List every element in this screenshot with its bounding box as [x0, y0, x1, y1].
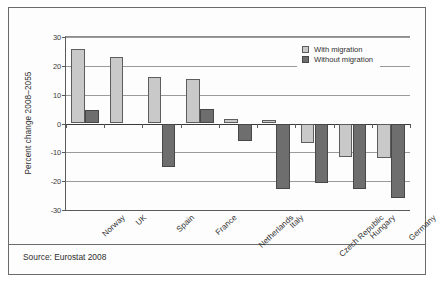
legend-item-with-migration: With migration	[302, 44, 373, 54]
bar	[301, 124, 315, 144]
x-tick-mark	[181, 124, 182, 128]
bar	[162, 124, 176, 167]
x-tick-mark	[372, 124, 373, 128]
x-tick-mark	[410, 124, 411, 128]
gridline--30	[66, 210, 410, 211]
x-tick-mark	[257, 124, 258, 128]
bar	[315, 124, 329, 184]
x-tick-mark	[104, 124, 105, 128]
x-tick-label-norway: Norway	[100, 213, 126, 238]
y-tick-label-20: 20	[53, 61, 61, 70]
y-tick-label-0: 0	[57, 119, 61, 128]
y-tick-label-30: 30	[53, 33, 61, 42]
legend-swatch-icon-without-migration	[302, 56, 309, 63]
bar	[276, 124, 290, 190]
bar-group	[66, 37, 104, 210]
x-tick-mark	[295, 124, 296, 128]
source-note: Source: Eurostat 2008	[23, 252, 106, 262]
bar	[71, 49, 85, 124]
x-tick-label-uk: UK	[134, 213, 148, 227]
legend-swatch-icon-with-migration	[302, 46, 309, 53]
bar	[339, 124, 353, 157]
figure-frame: Percent change 2008–2055 3020100-10-20-3…	[8, 7, 426, 275]
footer-divider	[9, 244, 425, 245]
legend-item-without-migration: Without migration	[302, 54, 373, 64]
bar	[391, 124, 405, 199]
legend-label-without-migration: Without migration	[314, 55, 373, 64]
bar	[224, 119, 238, 124]
bar-group	[142, 37, 180, 210]
bar	[377, 124, 391, 158]
y-tick-label--20: -20	[51, 177, 61, 186]
y-tick-label--30: -30	[51, 206, 61, 215]
bar	[186, 79, 200, 123]
legend-label-with-migration: With migration	[314, 45, 363, 54]
bar	[200, 109, 214, 124]
x-tick-mark	[66, 124, 67, 128]
x-tick-label-france: France	[214, 213, 239, 237]
x-tick-mark	[334, 124, 335, 128]
chart-legend: With migration Without migration	[297, 41, 380, 67]
bar	[353, 124, 367, 190]
y-tick-label-10: 10	[53, 90, 61, 99]
y-axis-title: Percent change 2008–2055	[21, 36, 35, 210]
x-tick-label-spain: Spain	[175, 213, 196, 234]
bar-group	[257, 37, 295, 210]
y-tick-label--10: -10	[51, 148, 61, 157]
x-tick-label-germany: Germany	[407, 213, 438, 243]
bar	[110, 57, 124, 123]
bar-group	[181, 37, 219, 210]
bar	[262, 120, 276, 123]
bar	[238, 124, 252, 141]
bar-group	[219, 37, 257, 210]
bar-group	[104, 37, 142, 210]
x-tick-mark	[142, 124, 143, 128]
x-tick-mark	[219, 124, 220, 128]
bar	[85, 110, 99, 123]
y-tick-mark--30	[62, 210, 66, 211]
bar	[148, 77, 162, 124]
